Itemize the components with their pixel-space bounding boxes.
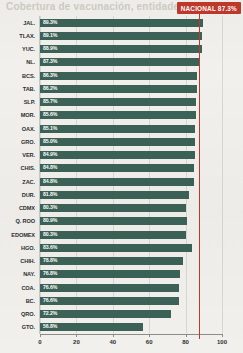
category-label: TAB. (23, 85, 35, 93)
category-label: GRO. (21, 138, 35, 146)
bar-row[interactable]: 80.3% (40, 204, 222, 212)
bar-row[interactable]: 78.8% (40, 257, 222, 265)
bar: 85.0% (40, 138, 195, 146)
bar: 86.2% (40, 85, 197, 93)
category-label: EDOMEX (11, 231, 35, 239)
bar: 80.3% (40, 231, 186, 239)
bar-value-label: 87.3% (43, 60, 57, 65)
category-label: BC. (26, 297, 35, 305)
category-label: QRO. (21, 310, 35, 318)
bar-row[interactable]: 76.6% (40, 297, 222, 305)
x-axis-tick (76, 334, 77, 337)
category-label: CDMX (19, 204, 35, 212)
category-label: YUC. (22, 45, 35, 53)
bar-row[interactable]: 84.9% (40, 151, 222, 159)
bar-value-label: 81.8% (43, 192, 57, 197)
bar-value-label: 86.2% (43, 86, 57, 91)
bar: 76.8% (40, 270, 180, 278)
category-label: HGO. (21, 244, 35, 252)
bar: 85.7% (40, 98, 196, 106)
national-average-badge: NACIONAL 87.3% (177, 2, 241, 14)
category-label: ZAC. (22, 178, 35, 186)
x-axis-tick (113, 334, 114, 337)
bar-row[interactable]: 72.2% (40, 310, 222, 318)
bar: 72.2% (40, 310, 171, 318)
category-label: COA. (21, 284, 35, 292)
bar-value-label: 88.9% (43, 47, 57, 52)
bar-value-label: 78.8% (43, 259, 57, 264)
x-axis-tick (222, 334, 223, 337)
bar-row[interactable]: 76.6% (40, 284, 222, 292)
bar-row[interactable]: 87.3% (40, 58, 222, 66)
bar-row[interactable]: 56.8% (40, 323, 222, 331)
national-reference-line (199, 12, 200, 339)
category-label: BCS. (22, 72, 35, 80)
category-label: Q. ROO (15, 217, 35, 225)
bar-value-label: 80.3% (43, 206, 57, 211)
bar: 80.3% (40, 204, 186, 212)
bar-row[interactable]: 85.1% (40, 125, 222, 133)
x-axis-tick-label: 40 (109, 339, 116, 345)
bar-value-label: 84.8% (43, 166, 57, 171)
gridline (222, 16, 223, 334)
bar: 78.8% (40, 257, 183, 265)
bar: 84.9% (40, 151, 195, 159)
bar-value-label: 76.6% (43, 298, 57, 303)
x-axis-tick-label: 20 (73, 339, 80, 345)
category-label: JAL. (23, 19, 35, 27)
bar: 87.3% (40, 58, 199, 66)
bar-value-label: 72.2% (43, 312, 57, 317)
x-axis-tick (40, 334, 41, 337)
bar-row[interactable]: 80.3% (40, 231, 222, 239)
bar-row[interactable]: 84.8% (40, 178, 222, 186)
x-axis-tick-label: 100 (217, 339, 227, 345)
bar-value-label: 85.7% (43, 100, 57, 105)
bar-chart: Cobertura de vacunación, entidades NACIO… (0, 0, 243, 353)
category-label: OAX. (22, 125, 35, 133)
bar-value-label: 86.3% (43, 73, 57, 78)
bar-value-label: 89.3% (43, 20, 57, 25)
bar-value-label: 80.3% (43, 232, 57, 237)
category-label: MOR. (21, 111, 35, 119)
bar: 81.8% (40, 191, 189, 199)
bar-row[interactable]: 81.8% (40, 191, 222, 199)
bar-rows: 89.3%89.1%88.9%87.3%86.3%86.2%85.7%85.6%… (40, 16, 222, 334)
bar: 83.6% (40, 244, 192, 252)
bar: 76.6% (40, 297, 179, 305)
bar-value-label: 83.6% (43, 245, 57, 250)
bar-row[interactable]: 89.3% (40, 19, 222, 27)
bar-value-label: 80.9% (43, 219, 57, 224)
category-label: NL. (26, 58, 35, 66)
bar: 85.1% (40, 125, 195, 133)
bar: 86.3% (40, 72, 197, 80)
bar-value-label: 85.1% (43, 126, 57, 131)
x-axis-line (40, 334, 222, 335)
bar: 89.1% (40, 32, 202, 40)
bar-row[interactable]: 86.3% (40, 72, 222, 80)
bar-row[interactable]: 84.8% (40, 164, 222, 172)
category-label: CHIS. (21, 164, 35, 172)
bar-row[interactable]: 85.7% (40, 98, 222, 106)
bar-row[interactable]: 85.6% (40, 111, 222, 119)
bar: 56.8% (40, 323, 143, 331)
bar: 84.8% (40, 164, 194, 172)
bar: 85.6% (40, 111, 196, 119)
bar-row[interactable]: 89.1% (40, 32, 222, 40)
bar-value-label: 89.1% (43, 33, 57, 38)
bar-row[interactable]: 88.9% (40, 45, 222, 53)
bar-value-label: 84.8% (43, 179, 57, 184)
bar-value-label: 76.8% (43, 272, 57, 277)
bar-row[interactable]: 80.9% (40, 217, 222, 225)
category-axis-labels: JAL.TLAX.YUC.NL.BCS.TAB.SLP.MOR.OAX.GRO.… (0, 16, 37, 334)
bar: 76.6% (40, 284, 179, 292)
category-label: CHIH. (20, 257, 35, 265)
x-axis-tick-label: 80 (182, 339, 189, 345)
category-label: DUR. (22, 191, 35, 199)
category-label: SLP. (24, 98, 35, 106)
bar-row[interactable]: 85.0% (40, 138, 222, 146)
bar-row[interactable]: 76.8% (40, 270, 222, 278)
category-label: NAY. (23, 270, 35, 278)
bar-row[interactable]: 83.6% (40, 244, 222, 252)
category-label: VER. (22, 151, 35, 159)
bar-row[interactable]: 86.2% (40, 85, 222, 93)
